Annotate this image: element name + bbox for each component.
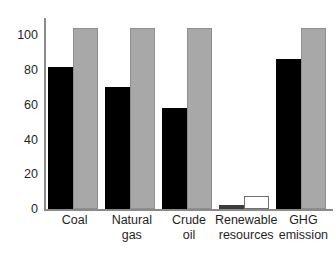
- bar: [105, 87, 130, 209]
- bar: [187, 28, 212, 209]
- bar-chart: 020406080100 CoalNatural gasCrude oilRen…: [0, 0, 336, 256]
- x-axis-line: [44, 209, 333, 211]
- bar: [301, 28, 326, 209]
- plot-area: [46, 18, 332, 209]
- y-axis-tick-label: 100: [17, 29, 38, 42]
- x-axis-category-labels: CoalNatural gasCrude oilRenewable resour…: [46, 213, 332, 255]
- y-axis-tick-label: 80: [24, 64, 38, 77]
- y-axis-tick-label: 20: [24, 168, 38, 181]
- bar: [162, 108, 187, 209]
- bar: [130, 28, 155, 209]
- y-axis-tick-label: 40: [24, 133, 38, 146]
- bar: [48, 67, 73, 209]
- bar: [219, 205, 244, 209]
- x-axis-category-label: GHG emission: [269, 213, 336, 242]
- y-axis-tick-label: 60: [24, 99, 38, 112]
- bar: [276, 59, 301, 209]
- y-axis-tick-label: 0: [31, 203, 38, 216]
- bar: [244, 196, 269, 209]
- bar: [73, 28, 98, 209]
- y-axis-tick-labels: 020406080100: [0, 0, 42, 256]
